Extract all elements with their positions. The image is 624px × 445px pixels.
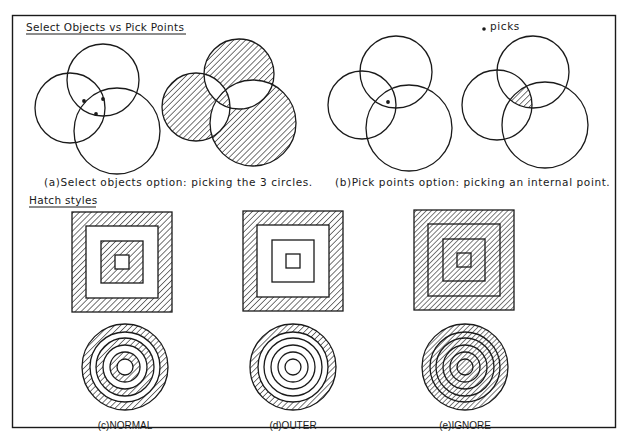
label-ignore: (e)IGNORE: [439, 420, 491, 431]
section-heading-select-vs-pick: Select Objects vs Pick Points: [26, 21, 184, 33]
ring-boundary: [285, 359, 301, 375]
ring-boundary: [82, 324, 168, 410]
label-normal: (c)NORMAL: [98, 420, 153, 431]
square-set-normal: [72, 212, 172, 312]
caption-a: (a)Select objects option: picking the 3 …: [44, 176, 313, 188]
square-boundary: [115, 255, 129, 269]
square-boundary: [72, 212, 172, 312]
hatch-style-normal: [72, 212, 172, 410]
hatch-region: [457, 253, 471, 267]
picks-legend: picks: [482, 20, 520, 32]
circle-set-ignore: [422, 324, 508, 410]
ring-boundary: [264, 338, 322, 396]
hatch-style-outer: [243, 211, 343, 410]
square-set-ignore: [414, 210, 514, 310]
hatch-diagram: Select Objects vs Pick Points picks (a)S…: [0, 0, 624, 445]
hatch-region: [243, 211, 343, 311]
ring-boundary: [258, 332, 328, 402]
circle-set-normal: [82, 324, 168, 410]
circle-outline: [328, 71, 396, 139]
panel-b-before-circles: [328, 36, 452, 171]
panel-b-after-hatched: [440, 20, 620, 190]
square-boundary: [257, 225, 329, 297]
pick-point-icon: [94, 112, 98, 116]
diagram-canvas: Select Objects vs Pick Points picks (a)S…: [0, 0, 624, 445]
pick-point-icon: [82, 99, 86, 103]
caption-b: (b)Pick points option: picking an intern…: [335, 176, 610, 188]
pick-dot-icon: [482, 27, 486, 31]
panel-a-after-hatched: [162, 39, 296, 166]
square-boundary: [272, 240, 314, 282]
square-boundary: [243, 211, 343, 311]
pick-point-icon: [101, 97, 105, 101]
hatch-region: [101, 241, 143, 283]
label-outer: (d)OUTER: [269, 420, 316, 431]
circle-outline: [67, 44, 139, 116]
hatch-region: [72, 212, 172, 312]
picks-legend-label: picks: [490, 20, 520, 32]
section-hatch-styles: Hatch styles (c)NORMAL (d)OUTER (e)IGNOR…: [29, 194, 514, 431]
panel-a-before-circles: [35, 44, 160, 174]
hatch-style-ignore: [414, 210, 514, 410]
square-boundary: [286, 254, 300, 268]
ring-boundary: [250, 324, 336, 410]
ring-boundary: [117, 359, 133, 375]
square-boundary: [86, 226, 158, 298]
circle-outline: [35, 73, 105, 143]
section-select-vs-pick: Select Objects vs Pick Points picks (a)S…: [26, 20, 620, 190]
evenodd-hatch-fill: [162, 39, 296, 166]
circle-outline: [502, 82, 588, 168]
circle-outline: [74, 88, 160, 174]
square-set-outer: [243, 211, 343, 311]
circle-set-outer: [250, 324, 336, 410]
intersection-hatch-fill: [440, 20, 620, 190]
ring-boundary: [96, 338, 154, 396]
ring-boundary: [278, 352, 308, 382]
pick-point-icon: [386, 100, 390, 104]
circle-outline: [366, 85, 452, 171]
section-heading-hatch-styles: Hatch styles: [29, 194, 97, 206]
